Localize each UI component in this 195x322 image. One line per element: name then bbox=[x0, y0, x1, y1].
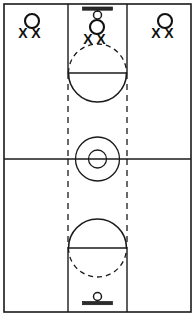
court-svg-canvas: X X X X X X bbox=[0, 0, 195, 322]
defender-marker-x[interactable]: X bbox=[96, 31, 106, 47]
defender-marker-x[interactable]: X bbox=[164, 25, 174, 41]
bottom-backboard bbox=[83, 302, 113, 305]
basketball-court-diagram: X X X X X X bbox=[0, 0, 195, 322]
defender-marker-x[interactable]: X bbox=[31, 25, 41, 41]
defender-marker-x[interactable]: X bbox=[83, 31, 93, 47]
top-backboard bbox=[83, 7, 113, 10]
defender-marker-x[interactable]: X bbox=[18, 25, 28, 41]
defender-marker-x[interactable]: X bbox=[151, 25, 161, 41]
court-background bbox=[0, 0, 195, 322]
